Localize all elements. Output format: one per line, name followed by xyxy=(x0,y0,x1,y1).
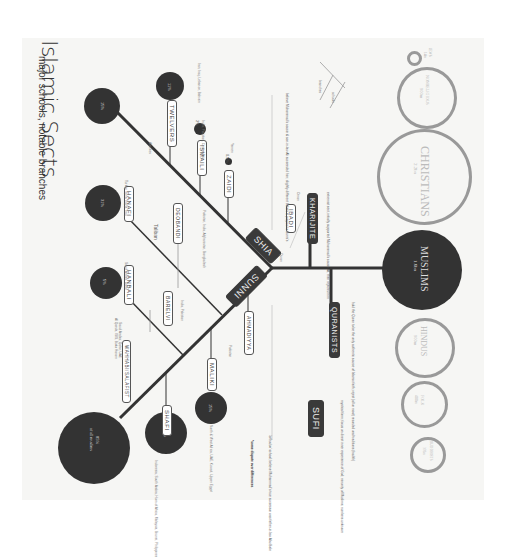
deobandi-region: Pakistan, India, Afghanistan, Bangladesh xyxy=(202,210,206,268)
twelvers-region: Iran, Iraq, Lebanon, Bahrain xyxy=(197,63,201,103)
sunni-note: 'orthodox' school; believe Muhammad's tr… xyxy=(268,435,272,551)
tag-twelvers[interactable]: TWELVERS xyxy=(167,100,177,147)
circle-sunni-share[interactable] xyxy=(58,412,130,484)
ibadi-note: Oman xyxy=(296,192,300,201)
sunni-share-note: of all muslims xyxy=(89,428,94,451)
zaidi-region: Yemen xyxy=(230,143,234,153)
buddhists-label: BUDDHISTS xyxy=(429,441,433,461)
muslims-value: 1.6bn xyxy=(413,260,418,271)
ismaili-region: India, Pakistan, Central Asia xyxy=(201,120,205,160)
sunni-share-value: 85% xyxy=(95,436,100,444)
buddhists-value: 376m xyxy=(422,447,426,455)
tag-ahmadiyya[interactable]: AHMADIYYA xyxy=(244,311,254,355)
nonreligious-label: NONRELIGIOUS xyxy=(425,75,430,105)
tag-barelvi[interactable]: BARELVI xyxy=(163,291,173,326)
scripture-label: Quran xyxy=(279,253,283,262)
wahhabi-region: Saudi Arabia, Qatar, UAE xyxy=(118,322,122,358)
tag-deobandi[interactable]: DEOBANDI xyxy=(173,203,183,244)
maliki-region: North & West Africa, UAE, Kuwait, Upper … xyxy=(209,425,213,492)
ismaili-share: 2% xyxy=(195,120,200,126)
folk-label: FOLK xyxy=(420,395,425,405)
ahmadiyya-region: Pakistan xyxy=(228,345,232,357)
tag-zaidi[interactable]: ZAIDI xyxy=(224,170,234,198)
page-subtitle: major schools, notable branches xyxy=(37,56,48,200)
circle-jews xyxy=(407,51,422,66)
hindus-value: 900m xyxy=(413,335,418,345)
sufi-note: mystical form; focus on direct inner exp… xyxy=(340,400,344,533)
tag-maliki[interactable]: MALIKI xyxy=(207,358,217,391)
legend-note: *some dispute over differences xyxy=(250,440,254,487)
taliban-label: Taliban xyxy=(154,224,158,240)
shafi-region: Indonesia, South Arabia, Horn of Africa,… xyxy=(154,460,158,557)
christians-label: CHRISTIANS xyxy=(417,146,432,217)
alawites-note: Alawites xyxy=(148,142,152,154)
tag-quranists[interactable]: QURANISTS xyxy=(329,302,340,358)
twelvers-share: 11% xyxy=(167,83,172,91)
barelvi-region: India, Pakistan xyxy=(180,300,184,321)
tag-kharijite[interactable]: KHARIJITE xyxy=(307,193,318,244)
al-qaeda-label: Al Qaeda, ISIS, Boko Haram xyxy=(114,318,118,359)
hanafi-region: Turkey, Syria, Egypt, Iraq xyxy=(124,180,128,216)
zaidi-share: 0.5% xyxy=(225,154,230,163)
kharijite-note: extremist sect, initially supported Muha… xyxy=(326,192,330,299)
hanafi-share: 31% xyxy=(100,199,105,207)
legend-key-branches: branches xyxy=(318,80,322,93)
tag-wahhabi-salafist[interactable]: WAHHABI/SALAFIST xyxy=(122,340,131,403)
legend-key-schools: schools xyxy=(331,92,335,103)
shia-share-value: 15% xyxy=(100,102,105,110)
shia-note: believe Muhammad's cousin & son-in-law A… xyxy=(285,93,289,241)
hanbali-share: 5% xyxy=(102,279,107,285)
muslims-label: MUSLIMS xyxy=(419,246,430,292)
quranists-note: hold the Quran to be the only authentic … xyxy=(351,302,355,461)
hindus-label: HINDUS xyxy=(419,326,428,356)
tag-shafi[interactable]: SHAFI xyxy=(162,405,172,436)
folk-value: 400m xyxy=(414,395,419,404)
circle-buddhists xyxy=(410,437,446,473)
christians-value: 2.2bn xyxy=(413,163,418,174)
maliki-share: 15% xyxy=(208,404,213,412)
nonreligious-value: 900m xyxy=(419,88,424,98)
hanbali-region: Saudi Arabia, Qatar xyxy=(124,262,128,290)
jews-label: JEWS xyxy=(428,48,432,57)
tag-sufi[interactable]: SUFI xyxy=(308,400,324,437)
jews-value: 14m xyxy=(423,52,427,58)
